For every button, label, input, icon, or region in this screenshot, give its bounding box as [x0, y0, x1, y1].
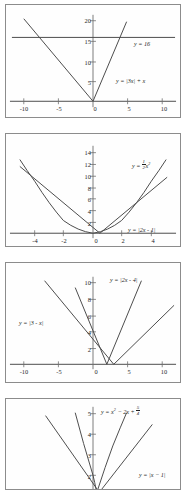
panel-2-xtick-neg2: -2: [61, 238, 66, 244]
panel-4-label-prefix: y = x: [101, 408, 114, 415]
panel-4-label-exponent: 2: [114, 407, 116, 412]
panel-1-label-y-equals-16: y = 16: [134, 41, 150, 47]
graph-panel-3: 10 8 6 4 2 -10 -5 0 5 10 y = |2x - 4| y …: [5, 262, 181, 383]
panel-1-xtick-neg5: -5: [56, 106, 61, 112]
panel-4-ytick-2: 2: [88, 474, 91, 480]
panel-3-xtick-neg5: -5: [56, 369, 61, 375]
panel-3-label-abs-3-minus-x: y = |3 - x|: [19, 320, 43, 326]
panel-2-xtick-0: 0: [94, 238, 97, 244]
panel-3-xtick-0: 0: [94, 369, 97, 375]
panel-3-ytick-2: 2: [88, 347, 91, 353]
panel-1-xtick-neg10: -10: [20, 106, 29, 112]
panel-1-xtick-5: 5: [127, 106, 130, 112]
panel-2-ytick-8: 8: [88, 186, 91, 192]
panel-2-ytick-4: 4: [88, 209, 91, 215]
panel-4-label-fraction: 5 4: [136, 405, 139, 416]
panel-2-xtick-neg4: -4: [32, 238, 37, 244]
panel-4-fraction-denominator: 4: [136, 411, 139, 416]
panel-4-label-quadratic: y = x2 − 2x + 5 4: [101, 405, 140, 416]
panel-2-ytick-10: 10: [85, 174, 91, 180]
panel-1-ytick-10: 10: [85, 60, 91, 66]
graph-panel-2: 14 12 10 8 6 4 2 -4 -2 0 2 4 y = 1 2 x2 …: [5, 133, 181, 247]
graph-panel-4: 5 4 3 2 y = x2 − 2x + 5 4 y = |x − 1|: [5, 398, 181, 490]
panel-1-ytick-15: 15: [85, 39, 91, 45]
panel-1-ytick-5: 5: [88, 80, 91, 86]
panel-2-ytick-2: 2: [88, 221, 91, 227]
panel-1-ytick-20: 20: [85, 18, 91, 24]
panel-2-label-abs-2x-minus-1: y = |2x - 1|: [128, 227, 156, 233]
panel-3-xtick-5: 5: [127, 369, 130, 375]
panel-4-label-middle: − 2x +: [117, 408, 134, 415]
panel-2-xtick-2: 2: [121, 238, 124, 244]
panel-3-label-abs-2x-minus-4: y = |2x - 4|: [110, 277, 138, 283]
panel-4-ytick-3: 3: [88, 453, 91, 459]
panel-2-label-exponent: 2: [148, 161, 150, 166]
panel-2-xtick-4: 4: [151, 238, 154, 244]
panel-2-label-lhs: y =: [132, 162, 140, 169]
panel-1-plot: [6, 5, 180, 117]
panel-3-ytick-4: 4: [88, 330, 91, 336]
panel-1-xtick-10: 10: [161, 106, 167, 112]
panel-2-ytick-6: 6: [88, 197, 91, 203]
panel-2-ytick-14: 14: [85, 150, 91, 156]
panel-3-xtick-neg10: -10: [20, 369, 29, 375]
panel-1-xtick-0: 0: [93, 106, 96, 112]
panel-3-xtick-10: 10: [161, 369, 167, 375]
panel-3-ytick-10: 10: [85, 280, 91, 286]
panel-1-label-abs-3x-plus-x: y = |3x| + x: [116, 78, 145, 84]
panel-4-label-abs-x-minus-1: y = |x − 1|: [139, 472, 166, 478]
panel-4-ytick-4: 4: [88, 432, 91, 438]
panel-2-ytick-12: 12: [85, 162, 91, 168]
panel-4-ytick-5: 5: [88, 411, 91, 417]
graph-panel-1: 20 15 10 5 -10 -5 0 5 10 y = 16 y = |3x|…: [5, 4, 181, 118]
panel-3-ytick-6: 6: [88, 314, 91, 320]
panel-3-ytick-8: 8: [88, 297, 91, 303]
panel-2-label-half-x-squared: y = 1 2 x2: [132, 159, 150, 170]
